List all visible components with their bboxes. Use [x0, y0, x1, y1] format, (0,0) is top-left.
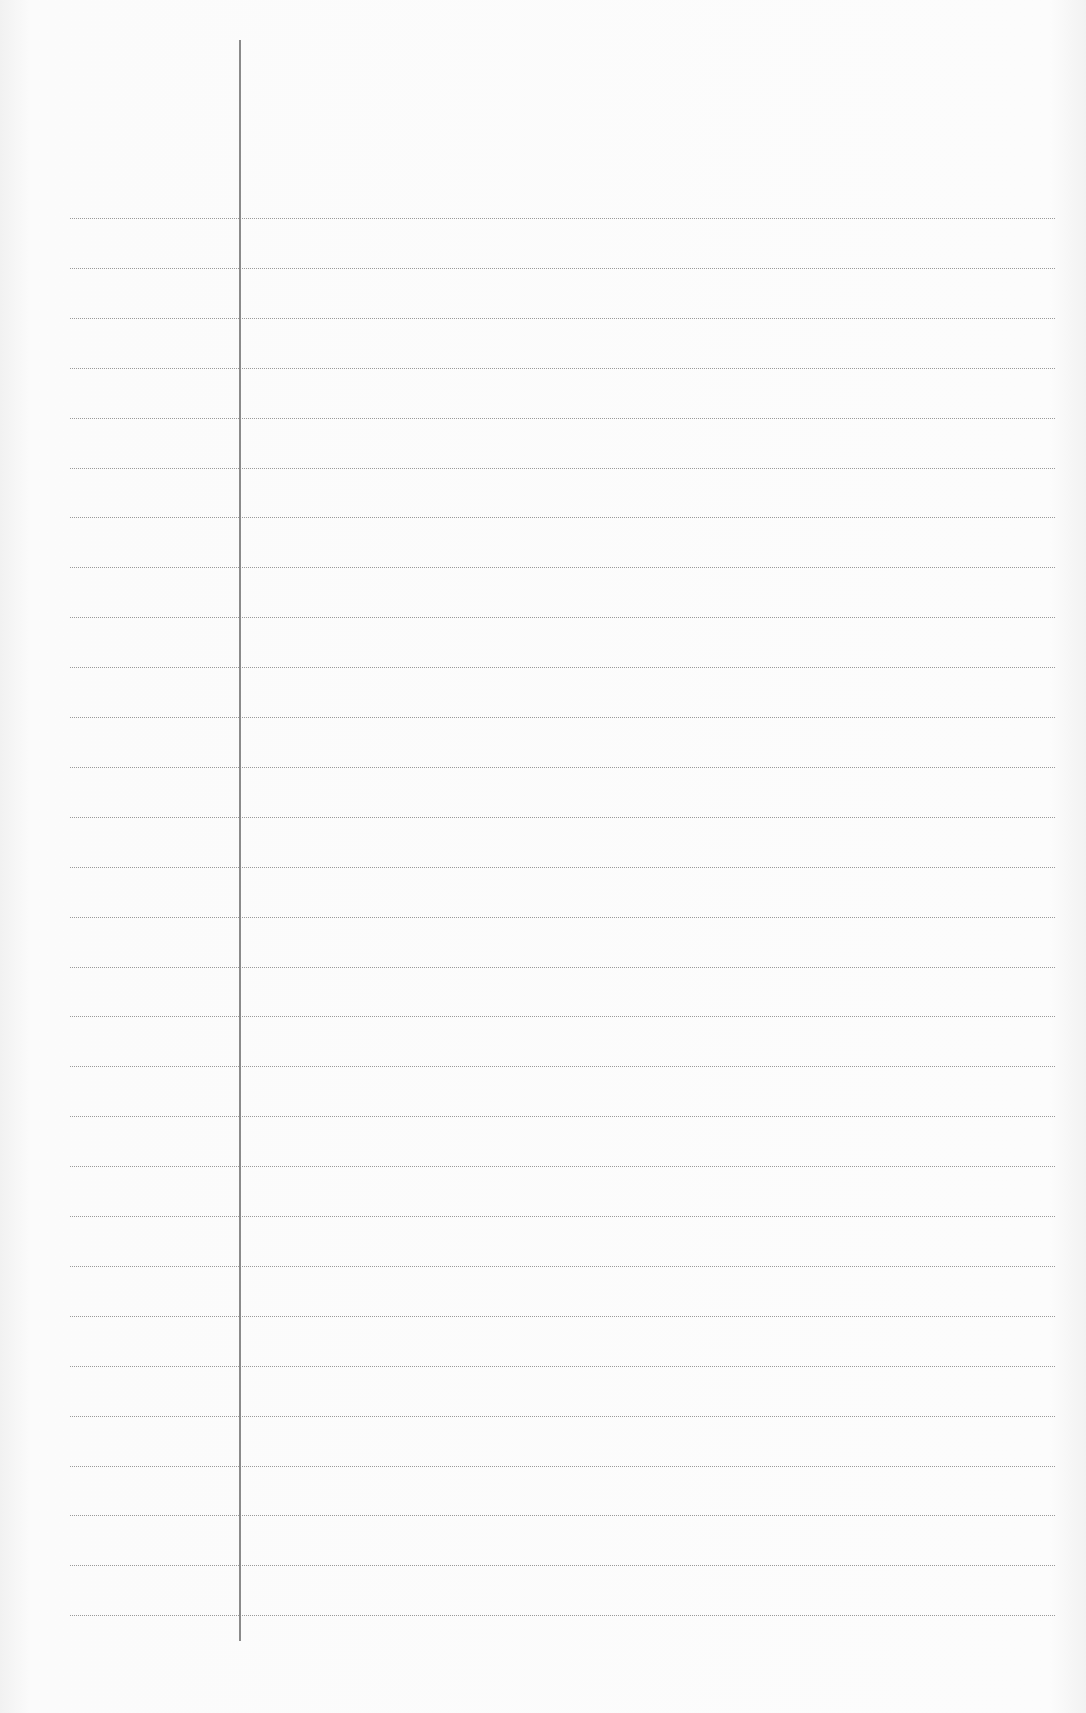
rule-line — [70, 767, 1055, 768]
lined-paper — [0, 0, 1086, 1713]
rule-line — [70, 468, 1055, 469]
rule-line — [70, 1615, 1055, 1616]
rule-line — [70, 418, 1055, 419]
rule-line — [70, 567, 1055, 568]
rule-line — [70, 1066, 1055, 1067]
rule-line — [70, 967, 1055, 968]
rule-line — [70, 617, 1055, 618]
rule-line — [70, 1266, 1055, 1267]
rule-line — [70, 717, 1055, 718]
rule-line — [70, 817, 1055, 818]
rule-line — [70, 268, 1055, 269]
rule-line — [70, 1466, 1055, 1467]
rule-line — [70, 667, 1055, 668]
margin-line — [239, 40, 241, 1641]
rule-line — [70, 917, 1055, 918]
rule-line — [70, 1515, 1055, 1516]
rule-line — [70, 1565, 1055, 1566]
rule-line — [70, 1016, 1055, 1017]
rule-line — [70, 1216, 1055, 1217]
rule-line — [70, 1316, 1055, 1317]
rule-line — [70, 1416, 1055, 1417]
rule-line — [70, 218, 1055, 219]
rule-line — [70, 517, 1055, 518]
rule-line — [70, 368, 1055, 369]
rule-line — [70, 1116, 1055, 1117]
rule-line — [70, 318, 1055, 319]
rule-line — [70, 1166, 1055, 1167]
rule-line — [70, 867, 1055, 868]
rule-line — [70, 1366, 1055, 1367]
